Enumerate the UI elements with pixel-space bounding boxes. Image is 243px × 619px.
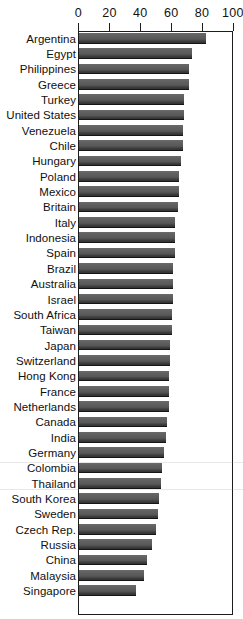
bar-track [79,491,233,506]
category-label-britain: Britain [43,201,76,213]
bar-row: Thailand [0,476,243,491]
bar-track [79,46,233,61]
category-label-france: France [40,386,76,398]
bar-row: Germany [0,445,243,460]
bar-row: China [0,553,243,568]
bar [79,110,184,121]
bar-row: Turkey [0,92,243,107]
bar-track [79,537,233,552]
bar [79,401,169,412]
bar [79,79,189,90]
bar-row: Chile [0,138,243,153]
bar [79,186,179,197]
bar [79,263,173,274]
category-label-greece: Greece [38,79,76,91]
category-label-russia: Russia [41,539,76,551]
bar [79,125,183,136]
bar [79,555,147,566]
bar [79,94,184,105]
bar [79,48,192,59]
bar-row: Philippines [0,62,243,77]
x-tick-label-80: 80 [195,6,210,20]
bar [79,325,172,336]
bar [79,340,170,351]
category-label-turkey: Turkey [41,94,76,106]
bar-track [79,430,233,445]
bar-track [79,77,233,92]
bar-track [79,138,233,153]
bar [79,463,162,474]
bar [79,232,175,243]
x-tick-label-60: 60 [164,6,179,20]
bar-track [79,399,233,414]
x-tick-mark-100 [233,23,234,31]
bar [79,309,172,320]
bar-row: Hong Kong [0,369,243,384]
bar-row: Russia [0,537,243,552]
x-tick-label-40: 40 [133,6,148,20]
bar [79,386,169,397]
bar-row: Malaysia [0,568,243,583]
bar-row: South Africa [0,307,243,322]
bar-track [79,461,233,476]
category-label-chile: Chile [50,140,76,152]
bar-track [79,292,233,307]
category-label-united-states: United States [6,109,76,121]
bar-row: Singapore [0,583,243,598]
bar-row: Czech Rep. [0,522,243,537]
category-label-china: China [46,554,76,566]
category-label-indonesia: Indonesia [26,232,76,244]
category-label-india: India [51,432,76,444]
bar [79,33,206,44]
bar-track [79,184,233,199]
bar-row: Switzerland [0,353,243,368]
category-label-mexico: Mexico [39,186,76,198]
bar-row: India [0,430,243,445]
category-label-poland: Poland [40,171,76,183]
bar [79,156,181,167]
category-label-australia: Australia [31,278,76,290]
bar-row: Italy [0,215,243,230]
category-label-spain: Spain [46,247,76,259]
bar [79,279,173,290]
category-label-south-korea: South Korea [12,493,77,505]
bar-row: Indonesia [0,230,243,245]
category-label-switzerland: Switzerland [16,355,76,367]
bar-track [79,154,233,169]
bar-track [79,62,233,77]
category-label-thailand: Thailand [31,478,76,490]
bar-row: Sweden [0,507,243,522]
bar-track [79,323,233,338]
bar-row: Britain [0,200,243,215]
bar-rows: ArgentinaEgyptPhilippinesGreeceTurkeyUni… [0,31,243,599]
bar-track [79,445,233,460]
x-tick-mark-60 [171,23,172,31]
bar-row: Egypt [0,46,243,61]
bar-row: Hungary [0,154,243,169]
category-label-israel: Israel [48,294,76,306]
x-tick-mark-20 [109,23,110,31]
bar-row: Poland [0,169,243,184]
bar [79,585,136,596]
category-label-germany: Germany [28,447,76,459]
bar [79,294,173,305]
category-label-south-africa: South Africa [13,309,76,321]
x-tick-label-20: 20 [102,6,117,20]
category-label-czech-rep: Czech Rep. [15,524,76,536]
bar-track [79,123,233,138]
bar-track [79,583,233,598]
bar-track [79,553,233,568]
bar [79,140,183,151]
bar-row: Australia [0,277,243,292]
bar [79,509,158,520]
category-label-singapore: Singapore [23,585,76,597]
bar [79,417,167,428]
bar-chart: 020406080100 ArgentinaEgyptPhilippinesGr… [0,0,243,619]
bar-track [79,92,233,107]
bar-track [79,522,233,537]
bar-row: Spain [0,246,243,261]
bar [79,570,144,581]
category-label-malaysia: Malaysia [30,570,76,582]
bar-track [79,338,233,353]
bar-track [79,353,233,368]
